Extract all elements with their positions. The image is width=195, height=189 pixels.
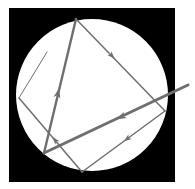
diagram-canvas	[0, 0, 195, 189]
reflecting-circle	[16, 19, 168, 171]
light-reflection-diagram	[0, 0, 195, 189]
